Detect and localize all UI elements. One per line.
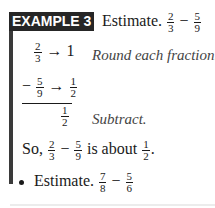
step-result: 12 [60, 105, 70, 128]
fraction: 12 [70, 76, 78, 99]
fraction: 78 [99, 171, 107, 194]
conclusion: So, 23 − 59 is about 12. [22, 139, 155, 162]
step-note-round: Round each fraction. [92, 47, 215, 64]
arrow-icon: → [49, 77, 65, 94]
fraction: 59 [36, 76, 44, 99]
step-round-first: 23 → 1 [33, 41, 75, 64]
fraction: 59 [194, 11, 202, 34]
prompt-label: Estimate. [102, 12, 162, 29]
fraction: 12 [142, 139, 150, 162]
operator: − [179, 12, 188, 29]
rounded-value: 1 [67, 42, 75, 59]
bottom-divider [10, 204, 215, 206]
fraction: 12 [61, 105, 69, 128]
exercise-item: Estimate. 78 − 56 [19, 171, 134, 194]
fraction: 23 [34, 41, 42, 64]
fraction: 56 [126, 171, 134, 194]
example-prompt: Estimate. 23 − 59 [102, 11, 202, 34]
bullet-icon [19, 180, 24, 185]
fraction: 59 [74, 139, 82, 162]
fraction: 23 [167, 11, 175, 34]
minus-sign: − [22, 77, 31, 94]
left-accent-bar [9, 12, 13, 184]
fraction: 23 [48, 139, 56, 162]
step-note-subtract: Subtract. [92, 111, 147, 128]
arrow-icon: → [47, 42, 63, 59]
exercise-label: Estimate. [34, 172, 94, 189]
example-badge: EXAMPLE 3 [9, 12, 94, 31]
step-round-second: − 59 → 12 [22, 76, 78, 99]
